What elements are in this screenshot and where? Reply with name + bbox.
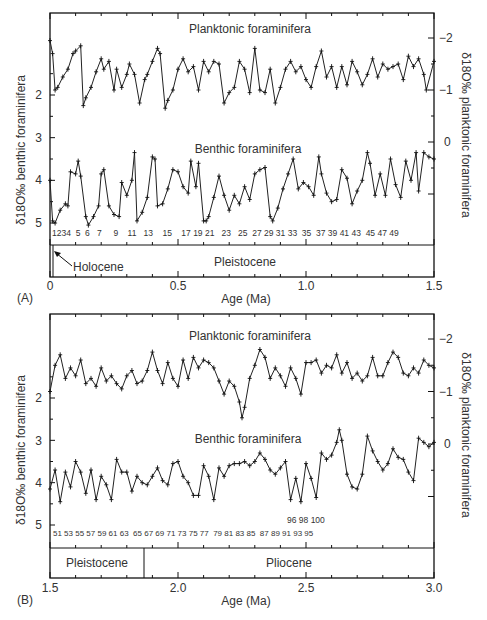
planktonic-data-point-marker xyxy=(243,405,247,410)
benthic-data-point-marker xyxy=(76,159,80,164)
panel-b-x-tick-labels: 1.5 2.0 2.5 3.0 xyxy=(42,581,443,595)
planktonic-data-point-marker xyxy=(371,56,375,61)
benthic-data-point-marker xyxy=(350,201,354,206)
benthic-data-point-marker xyxy=(399,195,403,200)
benthic-data-point-marker xyxy=(417,189,421,194)
panel-b-left-axis-label: δ18O‰ benthic foraminifera xyxy=(14,375,28,525)
benthic-data-point-marker xyxy=(350,484,354,489)
planktonic-data-point-marker xyxy=(263,90,267,95)
panel-a-right-tick: −2 xyxy=(439,31,453,45)
benthic-data-point-marker xyxy=(304,461,308,466)
planktonic-data-point-marker xyxy=(125,72,129,77)
benthic-data-point-marker xyxy=(409,178,413,183)
planktonic-data-point-marker xyxy=(319,49,323,54)
planktonic-data-point-marker xyxy=(163,106,167,111)
benthic-data-point-marker xyxy=(291,157,295,162)
panel-a-label: (A) xyxy=(17,291,33,305)
panel-b-curves xyxy=(48,347,436,504)
planktonic-data-point-marker xyxy=(376,75,380,80)
benthic-data-point-marker xyxy=(58,499,62,504)
panel-a-curves xyxy=(48,38,436,228)
panel-a-right-axis-label: δ18O‰ planktonic foraminifera xyxy=(459,52,473,218)
benthic-data-point-marker xyxy=(125,193,129,198)
panel-a-x-axis-label: Age (Ma) xyxy=(221,292,270,306)
benthic-data-point-marker xyxy=(79,470,83,475)
benthic-data-point-marker xyxy=(194,184,198,189)
planktonic-data-point-marker xyxy=(181,358,185,363)
benthic-data-point-marker xyxy=(145,195,149,200)
planktonic-data-point-marker xyxy=(314,358,318,363)
benthic-data-point-marker xyxy=(227,463,231,468)
planktonic-data-point-marker xyxy=(345,82,349,87)
planktonic-data-point-marker xyxy=(391,64,395,69)
planktonic-data-point-marker xyxy=(401,371,405,376)
benthic-data-point-marker xyxy=(63,470,67,475)
planktonic-data-point-marker xyxy=(376,373,380,378)
benthic-data-point-marker xyxy=(97,203,101,208)
planktonic-data-point-marker xyxy=(314,64,318,69)
planktonic-data-point-marker xyxy=(335,352,339,357)
panel-a: Planktonic foraminifera Benthic foramini… xyxy=(14,13,473,306)
panel-b-right-tick: −1 xyxy=(439,385,453,399)
benthic-data-point-marker xyxy=(130,489,134,494)
planktonic-data-point-marker xyxy=(304,360,308,365)
benthic-data-point-marker xyxy=(248,197,252,202)
benthic-data-point-marker xyxy=(299,499,303,504)
benthic-data-point-marker xyxy=(117,214,121,219)
planktonic-data-point-marker xyxy=(112,88,116,93)
planktonic-data-point-marker xyxy=(48,38,52,43)
benthic-data-point-marker xyxy=(84,491,88,496)
planktonic-data-point-marker xyxy=(248,90,252,95)
planktonic-data-point-marker xyxy=(150,350,154,355)
panel-b-left-tick: 4 xyxy=(35,476,42,490)
benthic-data-point-marker xyxy=(207,474,211,479)
panel-a-left-tick: 5 xyxy=(35,216,42,230)
planktonic-data-point-marker xyxy=(424,88,428,93)
benthic-data-point-marker xyxy=(345,472,349,477)
planktonic-curve xyxy=(50,350,434,418)
planktonic-data-point-marker xyxy=(161,381,165,386)
panel-a-left-tick: 3 xyxy=(35,131,42,145)
benthic-data-point-marker xyxy=(373,193,377,198)
benthic-data-point-marker xyxy=(212,497,216,502)
planktonic-data-point-marker xyxy=(186,376,190,381)
benthic-data-point-marker xyxy=(281,186,285,191)
planktonic-data-point-marker xyxy=(396,62,400,67)
panel-a-x-tick: 1.5 xyxy=(426,279,443,293)
benthic-data-point-marker xyxy=(317,154,321,159)
panel-b-left-tick: 2 xyxy=(35,391,42,405)
panel-b-right-tick-labels: −2 −1 0 xyxy=(439,332,453,451)
panel-b-x-axis-label: Age (Ma) xyxy=(221,594,270,608)
panel-a-epoch-pleistocene: Pleistocene xyxy=(214,255,276,269)
benthic-data-point-marker xyxy=(368,161,372,166)
benthic-data-point-marker xyxy=(133,150,137,155)
benthic-data-point-marker xyxy=(176,169,180,174)
benthic-data-point-marker xyxy=(69,484,73,489)
planktonic-data-point-marker xyxy=(273,101,277,106)
panel-b-right-axis-label: δ18O‰ planktonic foraminifera xyxy=(459,352,473,518)
planktonic-data-point-marker xyxy=(432,365,436,370)
panel-a-benthic-label: Benthic foraminifera xyxy=(195,142,302,156)
panel-a-left-axis-label: δ18O‰ benthic foraminifera xyxy=(14,75,28,225)
planktonic-data-point-marker xyxy=(99,365,103,370)
panel-b-left-tick: 5 xyxy=(35,518,42,532)
benthic-data-point-marker xyxy=(360,472,364,477)
panel-b-label: (B) xyxy=(17,593,33,607)
planktonic-data-point-marker xyxy=(371,355,375,360)
figure-canvas: Planktonic foraminifera Benthic foramini… xyxy=(0,0,487,620)
panel-a-planktonic-label: Planktonic foraminifera xyxy=(189,22,311,36)
panel-b-right-tick: 0 xyxy=(444,437,451,451)
benthic-data-point-marker xyxy=(237,461,241,466)
benthic-data-point-marker xyxy=(371,448,375,453)
panel-a-right-tick: −1 xyxy=(439,83,453,97)
planktonic-data-point-marker xyxy=(278,85,282,90)
benthic-data-point-marker xyxy=(115,457,119,462)
benthic-data-point-marker xyxy=(94,497,98,502)
panel-b-x-tick: 1.5 xyxy=(42,581,59,595)
planktonic-data-point-marker xyxy=(258,88,262,93)
benthic-data-point-marker xyxy=(84,214,88,219)
planktonic-data-point-marker xyxy=(253,363,257,368)
panel-b-right-tick: −2 xyxy=(439,332,453,346)
planktonic-data-point-marker xyxy=(330,365,334,370)
benthic-data-point-marker xyxy=(294,476,298,481)
